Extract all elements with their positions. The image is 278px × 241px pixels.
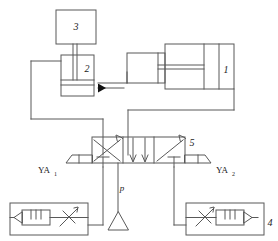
circuit-schematic-canvas: 3 2 1 5 4 p YA 1 YA 2 [0, 0, 278, 241]
solenoid-label-left: YA [38, 165, 51, 175]
solenoid-label-left-group: YA 1 [38, 165, 57, 177]
component-2-label: 2 [85, 63, 90, 74]
pressure-port-label: p [119, 183, 125, 193]
circuit-linework [10, 10, 264, 235]
left-check-valve-arrow [14, 212, 22, 223]
right-check-valve-arrow [244, 212, 252, 223]
solenoid-label-right-subscript: 2 [232, 171, 235, 177]
valve-right-flow-path-a [157, 140, 183, 161]
component-3-label: 3 [73, 21, 79, 32]
component-1-head-chamber [127, 53, 165, 83]
solenoid-label-right-group: YA 2 [216, 165, 235, 177]
component-1-label: 1 [224, 64, 229, 75]
component-4-label: 4 [268, 217, 273, 228]
pressure-source-triangle [108, 212, 128, 230]
component-5-label: 5 [190, 137, 195, 148]
hydraulic-circuit-diagram: 3 2 1 5 4 p YA 1 YA 2 [0, 0, 278, 241]
solenoid-label-left-subscript: 1 [54, 171, 57, 177]
solenoid-label-right: YA [216, 165, 229, 175]
